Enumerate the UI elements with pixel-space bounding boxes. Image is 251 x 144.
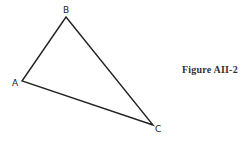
figure-caption: Figure AII-2: [182, 64, 238, 75]
vertex-label-c: C: [155, 124, 161, 134]
triangle-abc: [22, 17, 153, 125]
vertex-label-b: B: [63, 5, 69, 15]
vertex-label-a: A: [12, 78, 19, 88]
